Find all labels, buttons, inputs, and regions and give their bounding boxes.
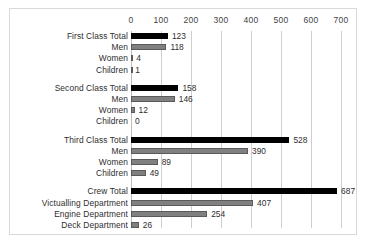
x-axis-tick-labels: 0100200300400500600700	[10, 15, 356, 29]
bar-row: First Class Total123	[10, 31, 358, 42]
bar-value-label: 4	[136, 53, 141, 64]
category-label: Third Class Total	[64, 135, 128, 146]
category-label: Children	[96, 65, 128, 76]
bar-row: Victualling Department407	[10, 198, 358, 209]
bar	[131, 55, 133, 61]
bar	[131, 107, 135, 113]
bar-value-label: 89	[162, 157, 171, 168]
category-label: Men	[111, 94, 128, 105]
category-label: First Class Total	[67, 31, 128, 42]
bar-value-label: 528	[293, 135, 307, 146]
x-tick-label: 0	[129, 15, 134, 25]
bar-row: Children1	[10, 65, 358, 76]
bar-row: Men118	[10, 42, 358, 53]
bar-row: Third Class Total528	[10, 135, 358, 146]
category-label: Men	[111, 146, 128, 157]
category-label: Women	[99, 157, 128, 168]
bar-row: Crew Total687	[10, 186, 358, 197]
x-tick-label: 700	[334, 15, 349, 25]
bar	[131, 67, 133, 73]
bar	[131, 200, 253, 206]
category-label: Children	[96, 116, 128, 127]
bar-value-label: 1	[135, 65, 140, 76]
bar-row: Men146	[10, 94, 358, 105]
x-tick-label: 200	[184, 15, 199, 25]
category-label: Women	[99, 105, 128, 116]
x-tick-label: 500	[274, 15, 289, 25]
bar-value-label: 0	[135, 116, 140, 127]
x-tick-label: 100	[154, 15, 169, 25]
bar-value-label: 687	[341, 186, 355, 197]
bar-value-label: 118	[170, 42, 183, 53]
bar-value-label: 26	[143, 220, 152, 231]
category-label: Victualling Department	[42, 198, 128, 209]
bar-value-label: 49	[150, 168, 159, 179]
bar-rows-container: First Class Total123Men118Women4Children…	[10, 31, 358, 228]
bar	[131, 85, 178, 91]
bar-row: Women89	[10, 157, 358, 168]
bar	[131, 33, 168, 39]
bar	[131, 170, 146, 176]
bar-value-label: 390	[252, 146, 266, 157]
bar-value-label: 12	[139, 105, 148, 116]
bar-row: Deck Department26	[10, 220, 358, 231]
category-label: Men	[111, 42, 128, 53]
bar-row: Women12	[10, 105, 358, 116]
bar-row: Women4	[10, 53, 358, 64]
x-tick-label: 300	[214, 15, 229, 25]
bar-value-label: 158	[182, 83, 196, 94]
category-label: Engine Department	[54, 209, 128, 220]
bar-value-label: 123	[172, 31, 186, 42]
bar-value-label: 254	[211, 209, 225, 220]
bar	[131, 159, 158, 165]
bar-row: Second Class Total158	[10, 83, 358, 94]
bar	[131, 137, 289, 143]
category-label: Second Class Total	[55, 83, 128, 94]
bar-value-label: 146	[179, 94, 193, 105]
bar-row: Men390	[10, 146, 358, 157]
bar-row: Engine Department254	[10, 209, 358, 220]
category-label: Deck Department	[61, 220, 128, 231]
bar	[131, 222, 139, 228]
bar-row: Children0	[10, 116, 358, 127]
category-label: Children	[96, 168, 128, 179]
x-tick-label: 600	[304, 15, 319, 25]
bar-row: Children49	[10, 168, 358, 179]
category-label: Women	[99, 53, 128, 64]
bar	[131, 211, 207, 217]
bar	[131, 188, 337, 194]
bar	[131, 148, 248, 154]
bar-value-label: 407	[257, 198, 271, 209]
chart-frame: 0100200300400500600700 First Class Total…	[9, 8, 357, 235]
x-tick-label: 400	[244, 15, 259, 25]
category-label: Crew Total	[88, 186, 128, 197]
bar	[131, 96, 175, 102]
bar	[131, 44, 166, 50]
